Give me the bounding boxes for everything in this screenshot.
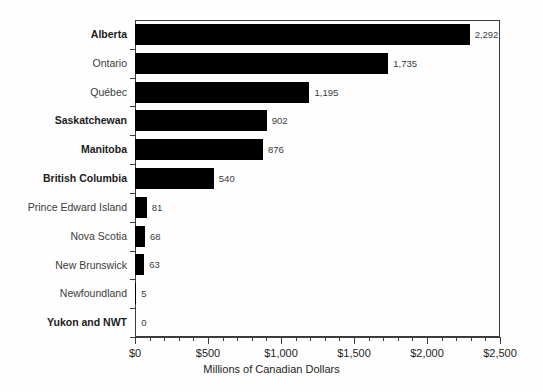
x-axis-minor-tick	[325, 337, 326, 341]
bar	[135, 197, 147, 218]
x-axis-tick-label: $2,500	[483, 347, 517, 359]
x-axis-minor-tick	[310, 337, 311, 341]
bar	[135, 24, 470, 45]
bar-value-label: 5	[136, 283, 146, 304]
x-axis-minor-tick	[442, 337, 443, 341]
category-label: Alberta	[0, 20, 127, 49]
x-axis-minor-tick	[369, 337, 370, 341]
bar-value-label: 1,195	[309, 82, 338, 103]
bar-row: Yukon and NWT0	[135, 308, 500, 337]
x-axis-minor-tick	[339, 337, 340, 341]
x-axis-minor-tick	[193, 337, 194, 341]
bar-chart-figure: Alberta2,292Ontario1,735Québec1,195Saska…	[0, 0, 543, 392]
x-axis-minor-tick	[471, 337, 472, 341]
x-axis-major-tick	[354, 337, 355, 344]
bar	[135, 254, 144, 275]
category-label: British Columbia	[0, 164, 127, 193]
bar-row: Prince Edward Island81	[135, 193, 500, 222]
x-axis-tick-label: $1,000	[264, 347, 298, 359]
x-axis-title: Millions of Canadian Dollars	[0, 363, 543, 375]
bar	[135, 110, 267, 131]
x-axis-minor-tick	[456, 337, 457, 341]
bar-value-label: 902	[267, 110, 288, 131]
bar-row: Saskatchewan902	[135, 106, 500, 135]
x-axis-major-tick	[281, 337, 282, 344]
bar	[135, 53, 388, 74]
bar-row: New Brunswick63	[135, 251, 500, 280]
bar-value-label: 63	[144, 254, 160, 275]
x-axis-tick-label: $2,000	[410, 347, 444, 359]
x-axis-minor-tick	[164, 337, 165, 341]
x-axis-minor-tick	[296, 337, 297, 341]
x-axis-minor-tick	[150, 337, 151, 341]
category-label: Prince Edward Island	[0, 193, 127, 222]
x-axis-minor-tick	[237, 337, 238, 341]
category-label: Québec	[0, 78, 127, 107]
bar-row: Nova Scotia68	[135, 222, 500, 251]
bar-value-label: 876	[263, 139, 284, 160]
bar	[135, 82, 309, 103]
category-label: Manitoba	[0, 135, 127, 164]
bar-row: Manitoba876	[135, 135, 500, 164]
x-axis-minor-tick	[179, 337, 180, 341]
bar-value-label: 0	[136, 312, 146, 333]
x-axis-minor-tick	[252, 337, 253, 341]
bar-row: Newfoundland5	[135, 279, 500, 308]
bar-row: British Columbia540	[135, 164, 500, 193]
category-label: Nova Scotia	[0, 222, 127, 251]
x-axis-tick-label: $1,500	[337, 347, 371, 359]
x-axis-minor-tick	[223, 337, 224, 341]
x-axis-minor-tick	[398, 337, 399, 341]
category-label: Ontario	[0, 49, 127, 78]
bar-value-label: 81	[147, 197, 163, 218]
x-axis-minor-tick	[266, 337, 267, 341]
x-axis-major-tick	[135, 337, 136, 344]
bar-rows: Alberta2,292Ontario1,735Québec1,195Saska…	[135, 20, 500, 337]
x-axis-minor-tick	[412, 337, 413, 341]
x-axis-minor-tick	[485, 337, 486, 341]
bar-value-label: 68	[145, 226, 161, 247]
bar	[135, 139, 263, 160]
bar-value-label: 1,735	[388, 53, 417, 74]
category-label: Yukon and NWT	[0, 308, 127, 337]
x-axis-major-tick	[208, 337, 209, 344]
bar-row: Ontario1,735	[135, 49, 500, 78]
category-label: Saskatchewan	[0, 106, 127, 135]
x-axis-ticks: $0$500$1,000$1,500$2,000$2,500	[135, 337, 500, 363]
category-label: New Brunswick	[0, 251, 127, 280]
bar	[135, 226, 145, 247]
x-axis-tick-label: $500	[196, 347, 220, 359]
bar	[135, 168, 214, 189]
category-label: Newfoundland	[0, 279, 127, 308]
bar-value-label: 540	[214, 168, 235, 189]
x-axis-minor-tick	[383, 337, 384, 341]
x-axis-major-tick	[427, 337, 428, 344]
x-axis-major-tick	[500, 337, 501, 344]
x-axis-tick-label: $0	[129, 347, 141, 359]
bar-value-label: 2,292	[470, 24, 499, 45]
bar-row: Québec1,195	[135, 78, 500, 107]
bar-row: Alberta2,292	[135, 20, 500, 49]
